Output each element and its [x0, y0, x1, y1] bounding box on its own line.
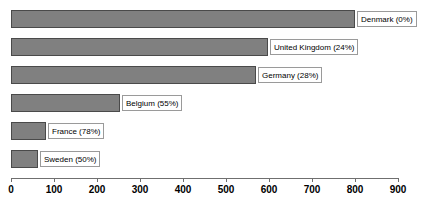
- x-axis-tick: [269, 178, 270, 182]
- x-axis-tick: [312, 178, 313, 182]
- x-axis-tick: [226, 178, 227, 182]
- bar-denmark[interactable]: [11, 10, 355, 28]
- x-axis-tick-label: 500: [218, 184, 235, 195]
- x-axis-tick-label: 100: [46, 184, 63, 195]
- x-axis-tick-label: 0: [8, 184, 14, 195]
- x-axis-tick-label: 800: [347, 184, 364, 195]
- bar-label-germany: Germany (28%): [258, 67, 322, 83]
- bar-row: Sweden (50%): [0, 150, 421, 168]
- bar-label-denmark: Denmark (0%): [357, 11, 417, 27]
- bar-united-kingdom[interactable]: [11, 38, 268, 56]
- bar-sweden[interactable]: [11, 150, 38, 168]
- x-axis-line: [11, 178, 398, 179]
- x-axis: 0 100 200 300 400 500 600 700 800 900: [0, 178, 421, 209]
- bar-row: Germany (28%): [0, 66, 421, 84]
- bar-label-united-kingdom: United Kingdom (24%): [270, 39, 358, 55]
- x-axis-tick: [183, 178, 184, 182]
- x-axis-tick-label: 700: [304, 184, 321, 195]
- bar-belgium[interactable]: [11, 94, 120, 112]
- x-axis-tick: [97, 178, 98, 182]
- x-axis-tick-label: 200: [89, 184, 106, 195]
- bar-germany[interactable]: [11, 66, 256, 84]
- x-axis-tick-label: 900: [390, 184, 407, 195]
- x-axis-tick: [54, 178, 55, 182]
- x-axis-tick: [355, 178, 356, 182]
- bar-label-belgium: Belgium (55%): [122, 95, 182, 111]
- bar-row: Denmark (0%): [0, 10, 421, 28]
- bar-label-sweden: Sweden (50%): [40, 151, 100, 167]
- x-axis-tick-label: 400: [175, 184, 192, 195]
- x-axis-tick-label: 300: [132, 184, 149, 195]
- x-axis-tick: [398, 178, 399, 182]
- bar-row: United Kingdom (24%): [0, 38, 421, 56]
- bar-row: Belgium (55%): [0, 94, 421, 112]
- x-axis-tick: [140, 178, 141, 182]
- x-axis-tick-label: 600: [261, 184, 278, 195]
- bar-label-france: France (78%): [48, 123, 104, 139]
- bar-row: France (78%): [0, 122, 421, 140]
- bar-chart: Denmark (0%) United Kingdom (24%) German…: [0, 0, 421, 209]
- plot-area: Denmark (0%) United Kingdom (24%) German…: [0, 0, 421, 178]
- x-axis-tick: [11, 178, 12, 182]
- bar-france[interactable]: [11, 122, 46, 140]
